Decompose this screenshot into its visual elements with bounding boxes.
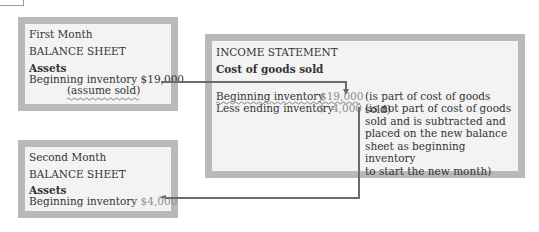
connector-line-bottom-horizontal — [165, 197, 360, 199]
statement-title: INCOME STATEMENT — [216, 46, 338, 58]
period-label: Second Month — [29, 151, 106, 163]
section-heading: Cost of goods sold — [216, 63, 323, 75]
arrow-down-icon — [343, 89, 349, 95]
sheet-title: BALANCE SHEET — [29, 168, 126, 180]
item-label-text: Beginning inventory — [29, 195, 137, 207]
income-statement: INCOME STATEMENT Cost of goods sold Begi… — [205, 34, 525, 178]
item-value: $19,000 — [141, 73, 184, 85]
corner-decoration — [0, 0, 24, 6]
first-month-balance-sheet: First Month BALANCE SHEET Assets Beginni… — [18, 17, 178, 111]
squiggle-underline — [67, 97, 139, 101]
connector-line-top-horizontal — [161, 81, 346, 83]
second-month-balance-sheet: Second Month BALANCE SHEET Assets Beginn… — [18, 140, 178, 218]
sheet-title: BALANCE SHEET — [29, 45, 126, 57]
item-label: Beginning inventory $4,000 — [29, 195, 177, 207]
row-note-ending: (is not part of cost of goods sold and i… — [365, 102, 518, 177]
arrow-left-icon — [159, 195, 166, 199]
item-note: (assume sold) — [67, 84, 140, 96]
connector-line-bottom-vertical — [358, 107, 360, 198]
period-label: First Month — [29, 28, 92, 40]
row-value-ending: $ 4,000 — [312, 102, 362, 114]
